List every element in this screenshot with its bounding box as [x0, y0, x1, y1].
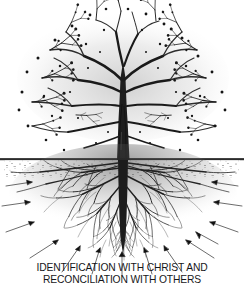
tree-drawing	[0, 0, 244, 285]
tree-illustration-figure: IDENTIFICATION WITH CHRIST AND RECONCILI…	[0, 0, 244, 285]
caption-line-2: RECONCILIATION WITH OTHERS	[10, 274, 234, 285]
caption-block: IDENTIFICATION WITH CHRIST AND RECONCILI…	[0, 262, 244, 285]
